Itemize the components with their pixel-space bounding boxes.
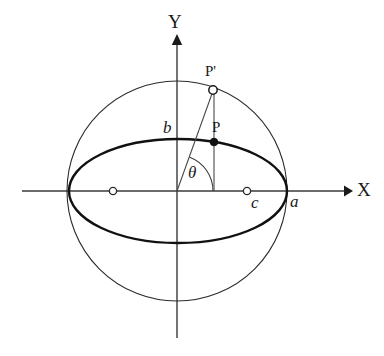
x-axis-arrowhead xyxy=(344,186,353,197)
semi-minor-axis-label: b xyxy=(163,119,172,136)
focal-distance-label: c xyxy=(251,194,259,211)
x-axis-label: X xyxy=(357,180,371,199)
point-p-marker xyxy=(210,138,218,146)
theta-angle-label: θ xyxy=(188,164,196,181)
y-axis-label: Y xyxy=(168,12,182,31)
point-p-prime-label: P' xyxy=(205,64,216,79)
geometry-figure: Y X P' P b a c θ xyxy=(0,0,384,356)
left-focus-marker xyxy=(109,187,116,194)
y-axis xyxy=(172,34,182,338)
x-axis xyxy=(22,186,353,197)
semi-major-axis-label: a xyxy=(290,193,299,210)
point-p-label: P xyxy=(212,120,220,135)
y-axis-arrowhead xyxy=(172,34,182,45)
right-focus-marker xyxy=(243,187,250,194)
point-p-prime-marker xyxy=(209,86,217,94)
